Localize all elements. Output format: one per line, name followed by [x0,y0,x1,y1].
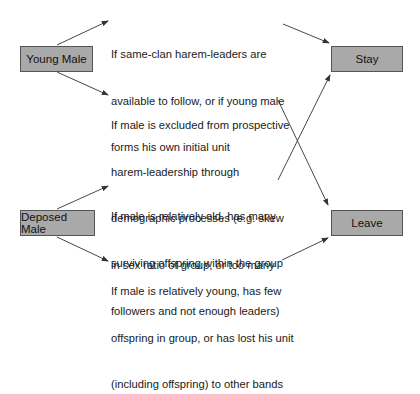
arrow-deposed-to-leave-condition [57,237,108,261]
node-stay: Stay [331,46,403,72]
node-young-male-label: Young Male [26,53,86,65]
condition-line: If male is excluded from prospective [111,118,289,134]
node-young-male: Young Male [20,46,93,72]
node-leave-label: Leave [351,217,382,229]
arrow-young-to-leave-condition [57,72,108,95]
node-leave: Leave [331,210,403,236]
condition-line: If same-clan harem-leaders are [111,47,285,63]
node-stay-label: Stay [355,53,378,65]
condition-line: If male is relatively old, has many [111,209,283,225]
arrow-young-to-stay-condition [57,21,108,45]
condition-deposed-leave: If male is relatively young, has few off… [111,253,294,394]
condition-line: offspring in group, or has lost his unit [111,331,294,347]
condition-line: (including offspring) to other bands [111,377,294,393]
node-deposed-male: Deposed Male [20,210,95,236]
arrow-deposed-to-stay-condition [57,186,108,209]
condition-line: If male is relatively young, has few [111,284,294,300]
arrow-young-condition-to-stay [283,24,329,43]
node-deposed-male-label: Deposed Male [21,211,94,235]
